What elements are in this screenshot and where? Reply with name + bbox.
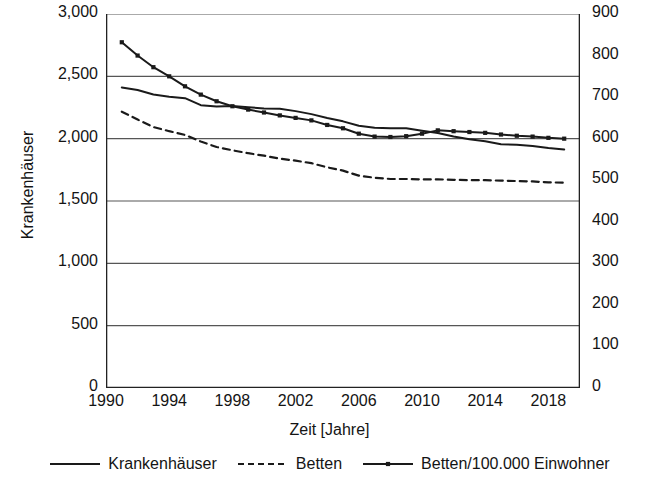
series-line-krankenh-user [122,87,564,149]
chart-figure: Krankenhäuser Betten*1000; Betten/100.00… [0,0,659,484]
series-marker [341,126,345,130]
y-axis-right-tick-label: 200 [592,294,652,312]
legend-label: Betten [296,455,342,473]
series-marker [483,131,487,135]
y-axis-right-tick-label: 400 [592,211,652,229]
series-marker [309,118,313,122]
y-axis-right-tick-label: 700 [592,86,652,104]
series-marker [278,113,282,117]
series-marker [246,107,250,111]
y-axis-left-tick-label: 2,000 [26,128,98,146]
series-marker [404,134,408,138]
x-axis-tick-label: 1998 [197,392,267,410]
series-marker [373,134,377,138]
plot-svg [106,14,580,388]
legend-swatch-icon [237,458,289,470]
series-marker [183,84,187,88]
series-marker [452,129,456,133]
series-marker [420,132,424,136]
series-marker [294,116,298,120]
y-axis-left-tick-label: 2,500 [26,65,98,83]
legend-item[interactable]: Krankenhäuser [49,455,217,473]
legend-label: Krankenhäuser [108,455,217,473]
y-axis-right-tick-label: 100 [592,335,652,353]
y-axis-left-tick-label: 1,500 [26,190,98,208]
legend-label: Betten/100.000 Einwohner [421,455,610,473]
y-axis-left-tick-label: 1,000 [26,252,98,270]
y-axis-right-tick-label: 600 [592,128,652,146]
y-axis-left-tick-label: 500 [26,315,98,333]
legend-item[interactable]: Betten/100.000 Einwohner [362,455,610,473]
series-marker [215,99,219,103]
x-axis-tick-label: 2010 [387,392,457,410]
x-axis-title: Zeit [Jahre] [0,421,659,439]
legend-item[interactable]: Betten [237,455,342,473]
x-axis-tick-label: 1994 [134,392,204,410]
series-marker [388,135,392,139]
series-marker [230,104,234,108]
y-axis-right-tick-label: 0 [592,377,652,395]
legend-marker [386,462,390,466]
y-axis-right-tick-label: 800 [592,45,652,63]
y-axis-left-tick-label: 3,000 [26,3,98,21]
legend-swatch-icon [362,458,414,470]
series-line-betten-100-000-einwohner [122,42,564,138]
series-marker [499,132,503,136]
series-marker [167,74,171,78]
legend-swatch-icon [49,458,101,470]
x-axis-tick-label: 2014 [450,392,520,410]
series-marker [325,123,329,127]
x-axis-tick-label: 2002 [261,392,331,410]
series-marker [262,110,266,114]
series-marker [151,65,155,69]
y-axis-right-tick-label: 300 [592,252,652,270]
chart-legend: KrankenhäuserBettenBetten/100.000 Einwoh… [0,455,659,473]
series-marker [531,134,535,138]
series-marker [136,53,140,57]
y-axis-right-tick-label: 900 [592,3,652,21]
series-marker [562,137,566,141]
plot-area [106,14,580,388]
series-marker [436,128,440,132]
y-axis-right-tick-label: 500 [592,169,652,187]
x-axis-tick-label: 1990 [71,392,141,410]
x-axis-tick-label: 2018 [513,392,583,410]
series-marker [546,136,550,140]
y-axis-left-title: Krankenhäuser [19,95,37,275]
series-marker [357,132,361,136]
series-marker [199,93,203,97]
series-marker [467,130,471,134]
x-axis-tick-label: 2006 [324,392,394,410]
series-marker [120,40,124,44]
series-marker [515,134,519,138]
